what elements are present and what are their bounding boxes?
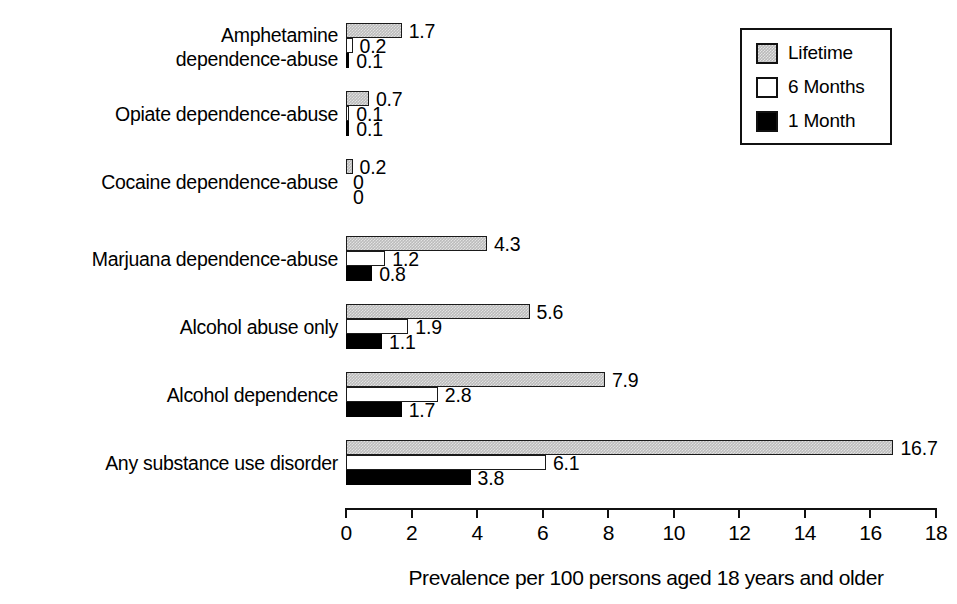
bar-rect-one-month: [346, 53, 349, 68]
x-axis-tick-label: 0: [340, 521, 351, 545]
bar-rect-one-month: [346, 121, 349, 136]
category-label: Opiate dependence-abuse: [8, 103, 338, 126]
bar-six-months: [346, 174, 347, 189]
category-label-line: Any substance use disorder: [8, 452, 338, 475]
bar-value-label: 1.9: [415, 320, 442, 335]
bar-one-month: [346, 121, 349, 136]
x-axis-tick-label: 14: [794, 521, 816, 545]
category-label: Cocaine dependence-abuse: [8, 171, 338, 194]
bar-rect-lifetime: [346, 440, 893, 455]
bar-one-month: [346, 402, 402, 417]
bar-group: Alcohol abuse only5.61.91.1: [0, 304, 957, 360]
x-axis-tick-label: 18: [925, 521, 947, 545]
x-axis-tick: [738, 508, 740, 518]
bar-group: Alcohol dependence7.92.81.7: [0, 372, 957, 428]
x-axis-tick-label: 10: [663, 521, 685, 545]
x-axis-tick: [935, 508, 937, 518]
x-axis-tick: [869, 508, 871, 518]
category-label-line: dependence-abuse: [8, 47, 338, 71]
plot-area: Amphetaminedependence-abuse1.70.20.1Opia…: [0, 0, 957, 604]
bar-lifetime: [346, 372, 605, 387]
bar-value-label: 0.8: [379, 267, 406, 282]
category-label: Marjuana dependence-abuse: [8, 248, 338, 271]
x-axis-tick: [476, 508, 478, 518]
x-axis-tick: [673, 508, 675, 518]
category-label-line: Marjuana dependence-abuse: [8, 248, 338, 271]
x-axis-tick-label: 4: [472, 521, 483, 545]
bar-value-label: 2.8: [445, 388, 472, 403]
bar-rect-one-month: [346, 266, 372, 281]
bar-rect-lifetime: [346, 159, 353, 174]
x-axis-tick: [607, 508, 609, 518]
bar-group: Opiate dependence-abuse0.70.10.1: [0, 91, 957, 147]
bar-value-label: 0.1: [356, 122, 383, 137]
bar-six-months: [346, 38, 353, 53]
bar-value-label: 5.6: [537, 305, 564, 320]
chart-canvas: Lifetime 6 Months 1 Month Amphetaminedep…: [0, 0, 957, 604]
bar-group: Cocaine dependence-abuse0.200: [0, 159, 957, 215]
bar-lifetime: [346, 159, 353, 174]
bar-one-month: [346, 189, 347, 204]
bar-rect-six-months: [346, 455, 546, 470]
bar-one-month: [346, 334, 382, 349]
bar-value-label: 7.9: [612, 373, 639, 388]
x-axis-tick-label: 12: [728, 521, 750, 545]
bar-one-month: [346, 53, 349, 68]
bar-value-label: 0.1: [356, 54, 383, 69]
bar-rect-six-months: [346, 106, 349, 121]
category-label: Any substance use disorder: [8, 452, 338, 475]
bar-lifetime: [346, 440, 893, 455]
x-axis-tick-label: 16: [859, 521, 881, 545]
category-label-line: Amphetamine: [8, 23, 338, 47]
bar-rect-one-month: [346, 334, 382, 349]
bar-value-label: 1.7: [409, 24, 436, 39]
x-axis: 024681012141618: [346, 508, 936, 510]
bar-rect-one-month: [346, 470, 471, 485]
bar-group: Any substance use disorder16.76.13.8: [0, 440, 957, 496]
bar-rect-one-month: [346, 402, 402, 417]
bar-value-label: 16.7: [900, 441, 937, 456]
bar-value-label: 3.8: [478, 471, 505, 486]
category-label-line: Opiate dependence-abuse: [8, 103, 338, 126]
bar-value-label: 6.1: [553, 456, 580, 471]
bar-group: Amphetaminedependence-abuse1.70.20.1: [0, 23, 957, 79]
category-label-line: Alcohol dependence: [8, 384, 338, 407]
bar-value-label: 4.3: [494, 237, 521, 252]
bar-rect-lifetime: [346, 372, 605, 387]
bar-rect-six-months: [346, 38, 353, 53]
category-label-line: Cocaine dependence-abuse: [8, 171, 338, 194]
bar-six-months: [346, 106, 349, 121]
bar-value-label: 1.1: [389, 335, 416, 350]
x-axis-tick: [345, 508, 347, 518]
x-axis-tick: [804, 508, 806, 518]
bar-one-month: [346, 266, 372, 281]
x-axis-tick-label: 8: [603, 521, 614, 545]
category-label: Amphetaminedependence-abuse: [8, 23, 338, 71]
category-label: Alcohol abuse only: [8, 316, 338, 339]
category-label: Alcohol dependence: [8, 384, 338, 407]
x-axis-tick: [411, 508, 413, 518]
bar-value-label: 1.7: [409, 403, 436, 418]
category-label-line: Alcohol abuse only: [8, 316, 338, 339]
x-axis-tick-label: 2: [406, 521, 417, 545]
bar-group: Marjuana dependence-abuse4.31.20.8: [0, 236, 957, 292]
bar-one-month: [346, 470, 471, 485]
x-axis-tick-label: 6: [537, 521, 548, 545]
x-axis-tick: [542, 508, 544, 518]
x-axis-title: Prevalence per 100 persons aged 18 years…: [346, 566, 946, 590]
bar-value-label: 0: [353, 190, 364, 205]
bar-six-months: [346, 455, 546, 470]
